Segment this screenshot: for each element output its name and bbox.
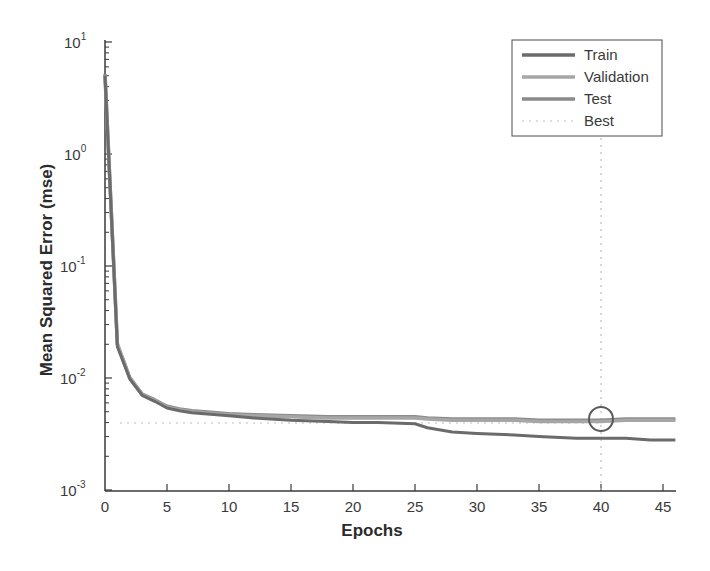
x-axis-title: Epochs — [341, 521, 402, 540]
y-tick-label: 10-1 — [60, 255, 86, 275]
x-tick-label: 15 — [283, 498, 300, 515]
x-tick-label: 25 — [407, 498, 424, 515]
y-tick-labels: 101 100 10-1 10-2 10-3 — [60, 31, 87, 499]
legend-label-validation: Validation — [584, 68, 649, 85]
legend: Train Validation Test Best — [512, 40, 662, 136]
y-axis-title: Mean Squared Error (mse) — [37, 164, 56, 377]
x-tick-label: 30 — [469, 498, 486, 515]
legend-label-best: Best — [584, 112, 615, 129]
x-tick-label: 20 — [345, 498, 362, 515]
y-tick-label: 10-2 — [60, 367, 86, 387]
x-tick-label: 10 — [221, 498, 238, 515]
y-tick-label: 101 — [64, 31, 87, 51]
x-tick-labels: 0 5 10 15 20 25 30 35 40 45 — [101, 498, 672, 515]
x-tick-label: 0 — [101, 498, 109, 515]
y-tick-label: 10-3 — [60, 479, 86, 499]
x-tick-label: 40 — [593, 498, 610, 515]
x-ticks — [167, 484, 663, 491]
x-tick-label: 45 — [655, 498, 672, 515]
legend-label-test: Test — [584, 90, 612, 107]
performance-chart: 101 100 10-1 10-2 10-3 0 5 10 15 20 25 3… — [0, 0, 710, 571]
legend-label-train: Train — [584, 46, 618, 63]
x-tick-label: 5 — [163, 498, 171, 515]
y-tick-label: 100 — [64, 143, 87, 163]
x-tick-label: 35 — [531, 498, 548, 515]
